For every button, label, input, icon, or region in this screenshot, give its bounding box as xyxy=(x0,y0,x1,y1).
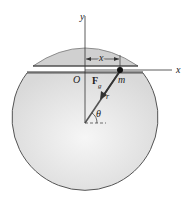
distance-label: x xyxy=(98,52,104,63)
origin-label: O xyxy=(73,74,80,85)
force-subscript: g xyxy=(98,82,102,90)
sphere-cap xyxy=(33,48,138,66)
angle-label: θ xyxy=(96,108,101,119)
tunnel-through-earth-diagram: y x O x F g m r θ xyxy=(0,0,191,199)
x-axis-label: x xyxy=(175,64,181,75)
mass-label: m xyxy=(118,74,125,85)
mass-point xyxy=(117,67,123,73)
y-axis-label: y xyxy=(79,11,85,22)
